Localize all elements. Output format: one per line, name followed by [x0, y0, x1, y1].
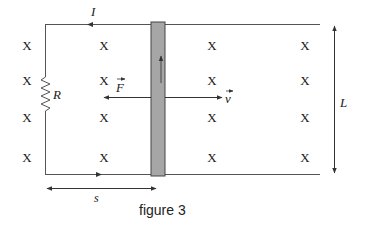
field-into-page-mark: X: [99, 111, 108, 124]
current-arrow-bottom-icon: [96, 172, 102, 177]
field-into-page-mark: X: [99, 39, 108, 52]
field-into-page-mark: X: [22, 111, 31, 124]
current-arrow-top-icon: [87, 22, 93, 27]
field-into-page-mark: X: [207, 39, 216, 52]
field-into-page-mark: X: [300, 151, 309, 164]
field-into-page-mark: X: [300, 39, 309, 52]
length-label: L: [340, 96, 347, 109]
left-wire-with-resistor: [41, 24, 50, 174]
field-into-page-mark: X: [207, 151, 216, 164]
field-into-page-mark: X: [207, 74, 216, 87]
field-into-page-mark: X: [300, 111, 309, 124]
field-into-page-mark: X: [22, 39, 31, 52]
field-into-page-mark: X: [99, 74, 108, 87]
distance-label: s: [94, 192, 99, 204]
field-into-page-mark: X: [22, 151, 31, 164]
sliding-rod: [151, 22, 165, 176]
field-into-page-mark: X: [207, 111, 216, 124]
sliding-rod-circuit-diagram: XXXXXXXXXXXXXXXX I R F v L s figure 3: [0, 0, 366, 227]
resistor-label: R: [53, 88, 61, 101]
field-into-page-mark: X: [99, 151, 108, 164]
circuit-drawing: [0, 0, 366, 227]
field-into-page-mark: X: [22, 74, 31, 87]
current-label: I: [91, 5, 95, 18]
figure-caption: figure 3: [139, 203, 186, 217]
field-into-page-mark: X: [300, 74, 309, 87]
velocity-label: v: [225, 92, 231, 105]
force-label: F: [116, 81, 124, 94]
